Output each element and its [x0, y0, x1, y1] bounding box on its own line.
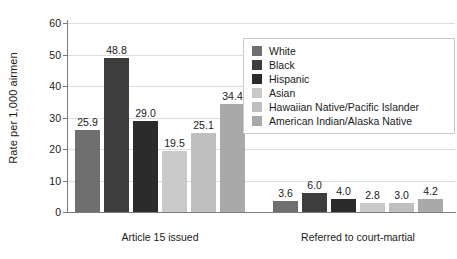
bar	[302, 193, 327, 212]
bar-chart-figure: Rate per 1,000 airmen 0102030405060 25.9…	[0, 0, 457, 259]
bar-value-label: 25.9	[69, 116, 106, 128]
bar	[133, 121, 158, 212]
y-tick-label: 0	[35, 206, 61, 218]
legend-label: Hawaiian Native/Pacific Islander	[269, 102, 419, 113]
y-tick-label: 60	[35, 17, 61, 29]
bar	[389, 203, 414, 212]
legend-item[interactable]: Hawaiian Native/Pacific Islander	[252, 100, 448, 114]
legend-label: Black	[269, 60, 295, 71]
y-axis-title: Rate per 1,000 airmen	[2, 0, 24, 215]
legend-swatch-icon	[252, 74, 262, 84]
x-axis-group-label: Article 15 issued	[70, 231, 250, 243]
legend-label: White	[269, 46, 296, 57]
legend-label: Hispanic	[269, 74, 309, 85]
bar-value-label: 19.5	[156, 137, 193, 149]
y-tick-label: 20	[35, 143, 61, 155]
bar	[360, 203, 385, 212]
bar-value-label: 29.0	[127, 107, 164, 119]
legend-swatch-icon	[252, 102, 262, 112]
y-tick-label: 50	[35, 49, 61, 61]
bar	[104, 58, 129, 212]
legend-item[interactable]: Asian	[252, 86, 448, 100]
y-axis-title-text: Rate per 1,000 airmen	[7, 52, 19, 164]
x-axis-group-label: Referred to court-martial	[268, 231, 448, 243]
y-tick-label: 40	[35, 80, 61, 92]
legend-item[interactable]: White	[252, 44, 448, 58]
legend-swatch-icon	[252, 116, 262, 126]
legend-swatch-icon	[252, 88, 262, 98]
legend-item[interactable]: Hispanic	[252, 72, 448, 86]
bar	[418, 199, 443, 212]
bar	[273, 201, 298, 212]
bar-value-label: 4.2	[412, 185, 449, 197]
bar	[220, 104, 245, 212]
legend-label: Asian	[269, 88, 295, 99]
bar-value-label: 25.1	[185, 119, 222, 131]
bar-value-label: 48.8	[98, 44, 135, 56]
legend-swatch-icon	[252, 60, 262, 70]
bar	[75, 130, 100, 212]
legend-swatch-icon	[252, 46, 262, 56]
legend-item[interactable]: Black	[252, 58, 448, 72]
x-axis-line	[67, 212, 456, 213]
y-tick-label: 10	[35, 175, 61, 187]
legend-label: American Indian/Alaska Native	[269, 116, 412, 127]
bar	[162, 151, 187, 212]
y-tick-label: 30	[35, 112, 61, 124]
legend: WhiteBlackHispanicAsianHawaiian Native/P…	[243, 38, 455, 134]
legend-item[interactable]: American Indian/Alaska Native	[252, 114, 448, 128]
bar	[191, 133, 216, 212]
bar	[331, 199, 356, 212]
